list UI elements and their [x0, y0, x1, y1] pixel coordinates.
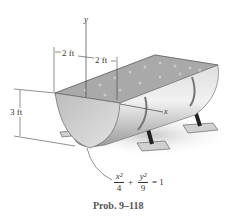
equation-plus: +	[128, 178, 133, 187]
dim-height-label: 3 ft	[10, 108, 22, 117]
x-axis-label: x	[164, 108, 168, 116]
equation-equals: = 1	[152, 178, 164, 187]
term2-denominator: 9	[141, 184, 146, 193]
dim-left-width-label: 2 ft	[62, 49, 74, 58]
term1-numerator: x²	[116, 172, 123, 181]
equation-term2: y² 9	[138, 172, 148, 193]
term2-numerator: y²	[140, 172, 147, 181]
y-axis-label: y	[84, 15, 88, 24]
figure-caption: Prob. 9–118	[93, 200, 143, 211]
term1-denominator: 4	[117, 184, 122, 193]
dim-right-width-label: 2 ft	[95, 56, 107, 65]
equation-term1: x² 4	[114, 172, 124, 193]
